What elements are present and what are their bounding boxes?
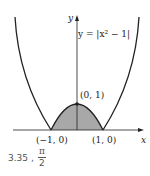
x-axis-arrow-icon	[138, 128, 144, 132]
fraction-numerator: π	[38, 147, 46, 158]
answer-separator: ,	[31, 153, 34, 163]
y-axis-label: y	[68, 14, 73, 23]
curve-left-branch	[15, 17, 51, 130]
peak-point	[75, 102, 79, 106]
point-label-right-root: (1, 0)	[92, 136, 116, 145]
point-label-peak: (0, 1)	[80, 91, 104, 100]
point-label-left-root: (−1, 0)	[36, 136, 68, 145]
fraction-denominator: 2	[39, 158, 45, 168]
answer-fraction: π 2	[38, 147, 46, 168]
answer-value: 3.35	[8, 153, 28, 163]
x-axis-label: x	[141, 136, 146, 145]
y-axis-arrow-icon	[75, 15, 79, 21]
answer-text: 3.35 , π 2	[8, 147, 46, 168]
equation-label: y = |x² − 1|	[78, 30, 130, 39]
